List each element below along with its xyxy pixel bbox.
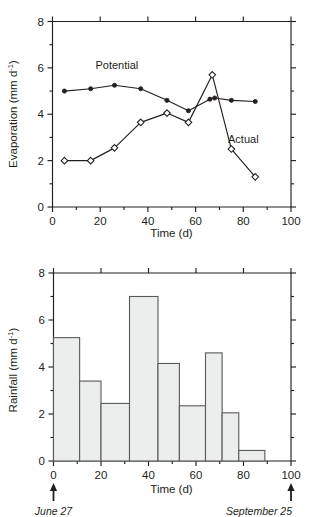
evaporation-chart-svg: 02468020406080100 Time (d) Evaporation (…	[0, 0, 311, 260]
rainfall-y-ticklabel-4: 4	[39, 361, 46, 373]
evaporation-y-axis-title-tail: )	[7, 60, 19, 64]
rainfall-y-ticklabel-8: 8	[39, 267, 45, 279]
rainfall-y-axis-title-superscript: -1	[6, 331, 15, 338]
rainfall-y-axis-title-base: Rainfall (mm d	[7, 338, 19, 412]
evaporation-y-ticklabel-0: 0	[38, 201, 44, 213]
rainfall-y-axis-title-tail: )	[7, 327, 19, 331]
rainfall-bars-group	[54, 297, 265, 462]
rainfall-y-ticklabel-6: 6	[39, 314, 45, 326]
evaporation-x-ticklabel-40: 40	[142, 215, 155, 227]
rainfall-bar-7	[222, 413, 239, 461]
evaporation-y-ticklabel-8: 8	[38, 16, 44, 28]
evaporation-x-ticklabel-80: 80	[237, 215, 250, 227]
datapoint-potential-7	[213, 96, 217, 100]
datapoint-potential-3	[139, 87, 143, 91]
datapoint-potential-1	[89, 87, 93, 91]
rainfall-x-ticklabel-40: 40	[142, 469, 155, 481]
datapoint-potential-0	[62, 89, 66, 93]
evaporation-x-ticklabel-20: 20	[94, 215, 107, 227]
rainfall-x-ticklabel-20: 20	[95, 469, 108, 481]
evaporation-x-ticklabel-60: 60	[189, 215, 202, 227]
datapoint-actual-0	[61, 157, 68, 164]
datapoint-actual-1	[87, 157, 94, 164]
evaporation-y-axis-title-base: Evaporation (mm d	[7, 71, 19, 168]
evaporation-x-axis-title: Time (d)	[150, 227, 193, 239]
start-date-label: June 27	[34, 505, 74, 517]
datapoint-potential-4	[165, 98, 169, 102]
evaporation-x-ticklabel-100: 100	[281, 215, 300, 227]
rainfall-y-axis-title: Rainfall (mm d-1)	[6, 327, 19, 412]
evaporation-series-group	[61, 72, 258, 181]
evaporation-y-axis-title: Evaporation (mm d-1)	[6, 60, 19, 168]
end-date-label: September 25	[226, 505, 292, 517]
datapoint-actual-6	[209, 72, 216, 79]
annotation-arrow-head-0	[50, 483, 57, 491]
evaporation-axes: 02468020406080100	[38, 16, 301, 228]
rainfall-x-ticklabel-80: 80	[237, 469, 250, 481]
rainfall-x-axis-title: Time (d)	[150, 483, 193, 495]
rainfall-bar-6	[206, 353, 223, 461]
evaporation-x-ticklabel-0: 0	[49, 215, 55, 227]
rainfall-bar-8	[239, 450, 265, 461]
rainfall-x-ticklabel-0: 0	[50, 469, 56, 481]
datapoint-actual-5	[185, 119, 192, 126]
rainfall-chart-panel: 02468020406080100 Time (d) Rainfall (mm …	[0, 260, 311, 517]
datapoint-potential-9	[253, 99, 257, 103]
rainfall-bar-3	[130, 297, 159, 462]
rainfall-x-ticklabel-60: 60	[190, 469, 203, 481]
figure-container: 02468020406080100 Time (d) Evaporation (…	[0, 0, 311, 517]
datapoint-actual-4	[164, 110, 171, 117]
evaporation-y-ticklabel-4: 4	[38, 108, 45, 120]
series-label-potential: Potential	[95, 59, 138, 71]
rainfall-bar-1	[80, 381, 101, 461]
rainfall-bar-4	[158, 363, 179, 461]
rainfall-chart-svg: 02468020406080100 Time (d) Rainfall (mm …	[0, 260, 311, 517]
datapoint-potential-5	[186, 109, 190, 113]
datapoint-potential-8	[229, 98, 233, 102]
rainfall-bar-2	[101, 403, 130, 461]
rainfall-y-ticklabel-0: 0	[39, 455, 45, 467]
datapoint-potential-6	[208, 97, 212, 101]
rainfall-bar-5	[179, 406, 205, 461]
series-label-actual: Actual	[228, 133, 259, 145]
evaporation-y-axis-title-superscript: -1	[6, 64, 15, 71]
rainfall-y-ticklabel-2: 2	[39, 408, 45, 420]
evaporation-y-ticklabel-2: 2	[38, 155, 44, 167]
annotation-arrow-head-1	[287, 483, 294, 491]
datapoint-potential-2	[112, 83, 116, 87]
evaporation-chart-panel: 02468020406080100 Time (d) Evaporation (…	[0, 0, 311, 260]
rainfall-bar-0	[54, 338, 80, 461]
evaporation-y-ticklabel-6: 6	[38, 62, 44, 74]
rainfall-x-ticklabel-100: 100	[281, 469, 300, 481]
